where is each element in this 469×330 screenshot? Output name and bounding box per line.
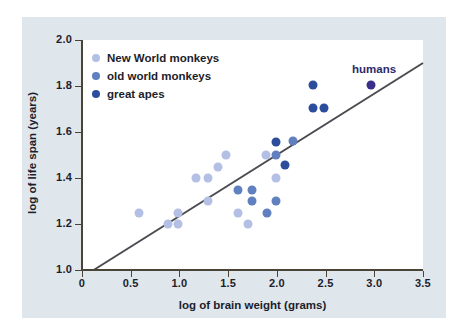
scatter-point [262, 151, 271, 160]
y-axis-title: log of life span (years) [26, 58, 38, 248]
scatter-point [233, 185, 242, 194]
scatter-point [233, 208, 242, 217]
scatter-point [271, 151, 280, 160]
scatter-point [280, 161, 289, 170]
y-axis-tick [75, 40, 82, 41]
scatter-point [308, 103, 317, 112]
x-axis-tick-label: 1.0 [162, 277, 196, 289]
x-axis-tick-label: 0.5 [114, 277, 148, 289]
scatter-point [289, 137, 298, 146]
scatter-point [243, 220, 252, 229]
figure-root: 1.01.21.41.61.82.0 00.51.01.52.02.53.03.… [0, 0, 469, 330]
x-axis-title: log of brain weight (grams) [82, 299, 423, 311]
y-axis-tick-label: 1.4 [44, 171, 72, 183]
scatter-point [271, 174, 280, 183]
scatter-point [203, 197, 212, 206]
scatter-point [263, 208, 272, 217]
x-axis-tick-label: 0 [65, 277, 99, 289]
x-axis-tick-label: 3.5 [406, 277, 440, 289]
scatter-point [214, 162, 223, 171]
y-axis-tick [75, 132, 82, 133]
scatter-point [191, 174, 200, 183]
scatter-point [367, 80, 376, 89]
y-axis-tick-label: 1.2 [44, 217, 72, 229]
scatter-point [271, 138, 280, 147]
scatter-point [163, 220, 172, 229]
y-axis-tick [75, 178, 82, 179]
scatter-point [174, 220, 183, 229]
scatter-point [247, 197, 256, 206]
legend-item-old-world-monkeys: old world monkeys [92, 68, 272, 84]
y-axis-tick [75, 224, 82, 225]
y-axis-tick-label: 1.6 [44, 125, 72, 137]
legend-swatch-icon [92, 90, 100, 98]
y-axis-line [81, 40, 83, 271]
legend-item-label: great apes [107, 88, 165, 100]
y-axis-tick-label: 2.0 [44, 33, 72, 45]
scatter-point [247, 185, 256, 194]
legend-swatch-icon [92, 72, 100, 80]
y-axis-tick-label: 1.8 [44, 79, 72, 91]
scatter-point [203, 174, 212, 183]
scatter-point [271, 197, 280, 206]
x-axis-tick-label: 2.0 [260, 277, 294, 289]
legend: New World monkeys old world monkeys grea… [92, 50, 272, 104]
scatter-point [134, 208, 143, 217]
y-axis-tick [75, 270, 82, 271]
legend-item-label: old world monkeys [107, 70, 211, 82]
scatter-point [319, 103, 328, 112]
scatter-point [222, 151, 231, 160]
legend-item-new-world-monkeys: New World monkeys [92, 50, 272, 66]
x-axis-tick-label: 2.5 [309, 277, 343, 289]
x-axis-tick-label: 3.0 [357, 277, 391, 289]
annotation-humans: humans [352, 63, 396, 75]
x-axis-tick-label: 1.5 [211, 277, 245, 289]
legend-item-great-apes: great apes [92, 86, 272, 102]
legend-item-label: New World monkeys [107, 52, 219, 64]
x-axis-line [81, 269, 423, 271]
scatter-point [308, 80, 317, 89]
y-axis-tick [75, 86, 82, 87]
y-axis-tick-label: 1.0 [44, 263, 72, 275]
legend-swatch-icon [92, 54, 100, 62]
scatter-point [174, 208, 183, 217]
